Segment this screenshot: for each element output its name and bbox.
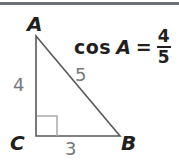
side-length-label-cb: 3 xyxy=(65,140,76,158)
equation-equals-sign: = xyxy=(136,38,152,57)
geometry-figure: A B C 4 5 3 cos A = 4 5 xyxy=(0,0,179,168)
equation-function-name: cos xyxy=(74,38,111,57)
fraction-numerator: 4 xyxy=(157,28,171,46)
cosine-equation: cos A = 4 5 xyxy=(74,28,171,66)
side-length-label-ab: 5 xyxy=(75,66,86,84)
fraction-denominator: 5 xyxy=(157,48,171,66)
side-length-label-ac: 4 xyxy=(13,76,24,94)
equation-fraction: 4 5 xyxy=(157,28,171,66)
equation-angle-variable: A xyxy=(116,38,131,57)
vertex-label-c: C xyxy=(10,133,25,153)
vertex-label-a: A xyxy=(27,14,42,34)
vertex-label-b: B xyxy=(121,133,136,153)
right-angle-marker-icon xyxy=(37,116,57,136)
